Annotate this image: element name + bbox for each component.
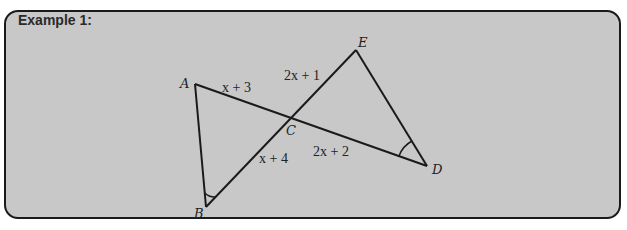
triangle-figure: A B C D E x + 3 2x + 1 x + 4 2x + 2 [0,0,627,230]
vertex-label-b: B [193,206,204,221]
segment-ed [356,50,427,166]
length-ac: x + 3 [222,80,251,95]
vertex-label-d: D [431,162,443,177]
length-bc: x + 4 [259,151,288,166]
segment-be [206,50,356,207]
vertex-label-c: C [286,123,296,138]
angle-mark-b [205,193,216,197]
length-ec: 2x + 1 [284,68,320,83]
vertex-label-a: A [179,76,189,91]
length-cd: 2x + 2 [313,144,349,159]
segment-ab [195,84,206,207]
vertex-label-e: E [357,35,368,50]
angle-mark-d [399,141,412,156]
